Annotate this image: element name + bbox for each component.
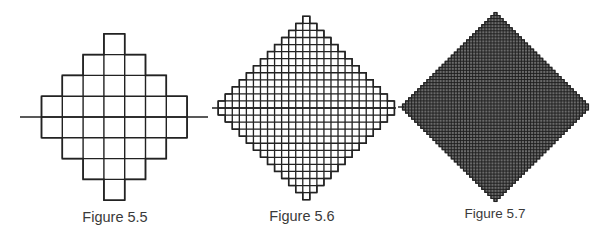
figure-5-7-grid (398, 12, 589, 201)
figure-5-5-grid (20, 34, 208, 200)
caption-figure-5-6: Figure 5.6 (269, 209, 334, 224)
figures-canvas (0, 0, 606, 240)
caption-figure-5-5: Figure 5.5 (82, 210, 147, 225)
figure-5-6-grid (212, 16, 396, 199)
caption-figure-5-7: Figure 5.7 (465, 207, 526, 221)
